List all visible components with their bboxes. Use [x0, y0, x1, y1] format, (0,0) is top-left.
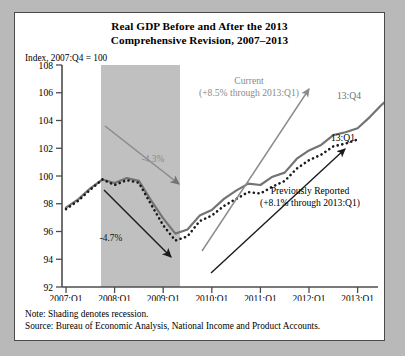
page-title: Real GDP Before and After the 2013 Compr… — [15, 20, 384, 47]
arrow-current-callout — [202, 89, 309, 251]
label-previously-reported: Previously Reported — [271, 185, 350, 196]
svg-text:2011:Q1: 2011:Q1 — [244, 294, 277, 301]
footnotes: Note: Shading denotes recession. Source:… — [25, 308, 320, 333]
svg-text:94: 94 — [43, 254, 53, 265]
label-current-sublabel: (+8.5% through 2013:Q1) — [199, 87, 299, 99]
x-axis-tick-labels: 2007:Q1 2008:Q1 2009:Q1 2010:Q1 2011:Q1 … — [50, 294, 375, 301]
svg-text:2012:Q1: 2012:Q1 — [293, 294, 326, 301]
svg-text:106: 106 — [39, 87, 54, 98]
svg-text:102: 102 — [39, 143, 54, 154]
svg-text:2013:Q1: 2013:Q1 — [341, 294, 374, 301]
svg-text:2007:Q1: 2007:Q1 — [50, 294, 83, 301]
svg-text:108: 108 — [39, 61, 54, 71]
label-current-decline: -4.3% — [142, 154, 165, 164]
svg-text:98: 98 — [43, 198, 53, 209]
label-endpoint-current: 13:Q4 — [337, 90, 361, 101]
note-shading: Note: Shading denotes recession. — [25, 308, 320, 321]
svg-text:92: 92 — [43, 282, 53, 293]
plot-area: 108 106 104 102 100 98 96 94 92 — [15, 61, 384, 301]
svg-text:2009:Q1: 2009:Q1 — [147, 294, 180, 301]
svg-text:100: 100 — [39, 171, 54, 182]
figure-card: Real GDP Before and After the 2013 Compr… — [14, 12, 385, 341]
gdp-line-chart: 108 106 104 102 100 98 96 94 92 — [15, 61, 384, 301]
svg-text:2010:Q1: 2010:Q1 — [195, 294, 228, 301]
label-endpoint-previous: 13:Q1 — [331, 132, 355, 143]
label-previous-decline: -4.7% — [100, 233, 123, 243]
title-line-1: Real GDP Before and After the 2013 — [15, 20, 384, 34]
y-axis-tick-labels: 108 106 104 102 100 98 96 94 92 — [39, 61, 54, 293]
title-line-2: Comprehensive Revision, 2007–2013 — [15, 34, 384, 48]
arrow-previous-callout — [211, 149, 345, 273]
y-axis-ticks — [56, 65, 62, 287]
label-previously-reported-sublabel: (+8.1% through 2013:Q1) — [260, 197, 360, 209]
source-line: Source: Bureau of Economic Analysis, Nat… — [25, 320, 320, 333]
label-current: Current — [234, 75, 264, 86]
svg-text:96: 96 — [43, 226, 53, 237]
svg-text:2008:Q1: 2008:Q1 — [98, 294, 131, 301]
svg-text:104: 104 — [39, 115, 54, 126]
x-axis-ticks — [66, 287, 358, 293]
